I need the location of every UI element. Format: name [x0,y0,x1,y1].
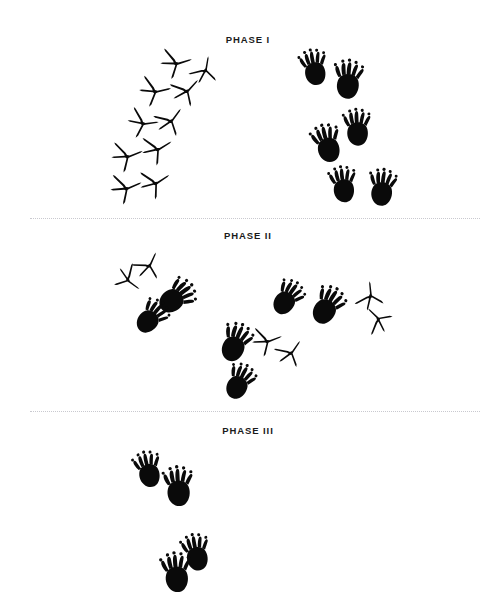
mammal-track [214,317,257,366]
mammal-track [219,358,261,404]
animal-track-phase-figure: PHASE I PHASE II PHASE III [0,0,496,607]
bird-track [168,74,206,111]
mammal-track [266,274,310,321]
mammal-track [178,530,214,573]
mammal-track [366,166,398,207]
bird-track [130,248,169,287]
phase-label-2: PHASE II [0,230,496,241]
mammal-track [129,293,175,340]
bird-track [138,169,172,202]
bird-track [110,142,143,173]
mammal-track [130,447,166,490]
mammal-track [332,57,365,99]
bird-track [152,103,191,142]
mammal-track [161,464,195,507]
bird-track [158,48,192,81]
mammal-track [326,163,359,204]
bird-track [354,279,389,315]
bird-track [251,328,282,358]
mammal-track [307,120,347,166]
phase-label-3: PHASE III [0,425,496,436]
mammal-track [341,107,372,147]
bird-track [123,107,160,144]
mammal-track [304,280,350,330]
bird-track [141,135,174,167]
bird-track [362,302,396,337]
bird-track [110,175,142,205]
mammal-track [296,46,331,88]
phase-label-1: PHASE I [0,34,496,45]
mammal-track [152,272,202,321]
bird-track [187,53,224,91]
bird-track [109,262,145,299]
mammal-track [158,550,193,594]
section-divider-2 [30,411,480,412]
track-layer [0,0,496,607]
bird-track [136,75,172,110]
bird-track [272,336,310,373]
section-divider-1 [30,218,480,219]
